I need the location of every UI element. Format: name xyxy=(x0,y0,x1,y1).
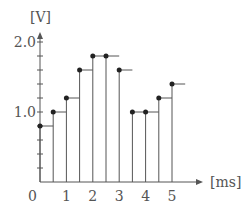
sample-point xyxy=(104,54,109,59)
x-tick-label: 1 xyxy=(62,188,71,204)
y-axis-label: [V] xyxy=(30,9,51,25)
x-tick-label: 2 xyxy=(88,188,97,204)
x-tick-label: 4 xyxy=(141,188,150,204)
sample-point xyxy=(51,110,56,115)
axes xyxy=(37,32,203,185)
x-axis-arrow-icon xyxy=(196,179,203,185)
origin-label: 0 xyxy=(28,188,37,204)
data-series xyxy=(38,54,186,183)
sample-hold-step-chart: [V] [ms] 0 1.02.012345 xyxy=(0,0,252,217)
sample-point xyxy=(64,96,69,101)
sample-point xyxy=(156,96,161,101)
sample-point xyxy=(77,68,82,73)
y-tick-label: 1.0 xyxy=(14,104,36,120)
x-tick-label: 5 xyxy=(168,188,177,204)
x-axis-label: [ms] xyxy=(210,174,241,190)
y-axis-arrow-icon xyxy=(37,32,43,39)
sample-point xyxy=(90,54,95,59)
x-tick-label: 3 xyxy=(115,188,124,204)
y-tick-label: 2.0 xyxy=(14,34,36,50)
sample-point xyxy=(38,124,43,129)
sample-point xyxy=(170,82,175,87)
sample-point xyxy=(143,110,148,115)
sample-point xyxy=(117,68,122,73)
axis-labels: [V] [ms] 0 1.02.012345 xyxy=(14,9,242,204)
sample-point xyxy=(130,110,135,115)
